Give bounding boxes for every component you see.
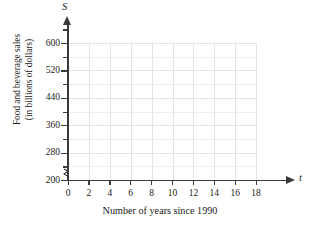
gridline-horizontal — [68, 43, 256, 44]
gridline-horizontal — [68, 153, 256, 154]
y-tick-minor — [63, 139, 69, 140]
y-tick-minor — [63, 84, 69, 85]
y-tick-label: 280 — [46, 148, 60, 158]
y-axis-variable-label: S — [62, 1, 67, 12]
y-tick-minor — [63, 57, 69, 58]
x-tick — [130, 180, 131, 185]
chart-figure: S t 600 520 440 360 280 200 0 2 4 6 8 10… — [0, 0, 312, 229]
x-axis-variable-label: t — [299, 172, 302, 183]
y-tick-label: 600 — [46, 39, 60, 49]
y-tick-major — [61, 70, 68, 71]
x-tick — [214, 180, 215, 185]
x-tick — [88, 180, 89, 185]
gridline-horizontal — [68, 70, 256, 71]
y-tick-label: 360 — [46, 121, 60, 131]
y-tick-label: 520 — [46, 66, 60, 76]
y-axis-title-line1: Food and beverage sales — [12, 5, 24, 155]
gridline-horizontal — [68, 98, 256, 99]
y-axis-title: Food and beverage sales (in billions of … — [12, 5, 35, 155]
gridline-horizontal — [68, 112, 256, 113]
gridline-horizontal — [68, 166, 256, 167]
y-axis-break-icon — [63, 168, 72, 179]
y-tick-minor — [63, 166, 69, 167]
x-tick — [172, 180, 173, 185]
y-tick-major — [61, 125, 68, 126]
x-axis-arrow-icon — [286, 176, 295, 184]
gridline-vertical — [256, 43, 257, 180]
y-tick-major — [61, 43, 68, 44]
x-axis-line — [62, 180, 286, 182]
y-axis-title-line2: (in billions of dollars) — [23, 5, 35, 155]
y-tick-minor — [63, 112, 69, 113]
gridline-horizontal — [68, 125, 256, 126]
x-tick-label: 18 — [244, 189, 268, 199]
x-tick — [193, 180, 194, 185]
plot-area — [68, 43, 256, 180]
y-tick-label: 440 — [46, 93, 60, 103]
y-tick-major — [61, 98, 68, 99]
x-tick — [151, 180, 152, 185]
gridline-horizontal — [68, 57, 256, 58]
x-tick — [68, 180, 69, 185]
y-tick-major — [61, 153, 68, 154]
y-axis-line — [67, 24, 69, 180]
x-tick — [109, 180, 110, 185]
x-tick — [256, 180, 257, 185]
gridline-horizontal — [68, 139, 256, 140]
y-tick-minor — [63, 29, 69, 30]
gridline-horizontal — [68, 84, 256, 85]
x-axis-title: Number of years since 1990 — [60, 205, 260, 216]
y-axis-arrow-icon — [63, 16, 71, 25]
y-tick-label: 200 — [46, 176, 60, 186]
x-tick — [235, 180, 236, 185]
